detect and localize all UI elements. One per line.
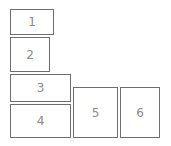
box-6: 6 xyxy=(120,87,160,138)
box-6-label: 6 xyxy=(136,106,144,120)
box-1-label: 1 xyxy=(28,15,36,29)
box-3-label: 3 xyxy=(37,81,45,95)
box-4: 4 xyxy=(10,104,71,138)
box-5: 5 xyxy=(73,87,118,138)
box-4-label: 4 xyxy=(37,114,45,128)
box-3: 3 xyxy=(10,74,71,102)
box-1: 1 xyxy=(10,9,54,35)
box-5-label: 5 xyxy=(92,106,100,120)
box-2-label: 2 xyxy=(26,48,34,62)
box-2: 2 xyxy=(10,37,50,72)
